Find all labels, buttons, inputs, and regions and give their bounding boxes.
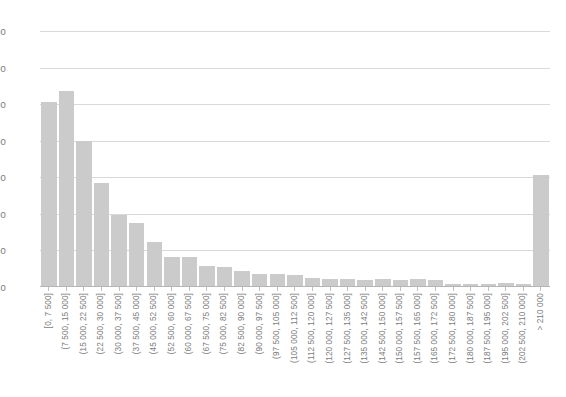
bar-slot [286,31,304,287]
x-tick-slot [444,287,462,291]
x-label-slot: (30 000, 37 500] [110,293,128,393]
x-axis-tick [523,287,524,291]
bar-slot [321,31,339,287]
x-axis-tick-label: (97 500, 105 000] [273,293,281,359]
x-tick-slot [515,287,533,291]
bar-slot [374,31,392,287]
histogram-chart: 0100200300400500600700 [0, 7 500](7 500,… [0,0,566,397]
y-axis-tick-label: 700 [0,26,6,37]
x-axis-tick [488,287,489,291]
x-tick-slot [409,287,427,291]
bar-slot [532,31,550,287]
x-axis-tick [330,287,331,291]
x-axis-tick-label: (127 500, 135 000] [344,293,352,364]
x-tick-slot [339,287,357,291]
x-tick-slot [374,287,392,291]
x-axis-tick-label: (37 500, 45 000] [133,293,141,354]
x-axis-labels: [0, 7 500](7 500, 15 000](15 000, 22 500… [40,293,550,393]
x-axis-tick-label: (195 000, 202 500] [502,293,510,364]
x-axis-tick [540,287,541,291]
x-axis-tick-label: (150 000, 157 500] [396,293,404,364]
x-axis-tick-label: > 210 000 [537,293,545,331]
x-axis-tick [206,287,207,291]
bar-slot [427,31,445,287]
x-axis-tick [259,287,260,291]
x-axis-tick-label: (90 000, 97 500] [256,293,264,354]
x-axis-tick [470,287,471,291]
y-axis-tick-label: 300 [0,172,6,183]
x-tick-slot [497,287,515,291]
x-axis-tick [312,287,313,291]
bar [76,141,91,287]
x-axis-tick [365,287,366,291]
x-axis-tick-label: (60 000, 67 500] [185,293,193,354]
x-tick-slot [93,287,111,291]
x-axis-tick [136,287,137,291]
x-axis-tick-label: (135 000, 142 500] [361,293,369,364]
x-tick-slot [163,287,181,291]
bar-slot [145,31,163,287]
bar-slot [497,31,515,287]
x-label-slot: (202 500, 210 000] [515,293,533,393]
bar-slot [304,31,322,287]
x-label-slot: (157 500, 165 000] [409,293,427,393]
bar-slot [356,31,374,287]
bar [59,91,74,287]
bar-slot [181,31,199,287]
x-axis-tick-label: (202 500, 210 000] [519,293,527,364]
bar-slot [444,31,462,287]
bar-slot [40,31,58,287]
x-label-slot: (7 500, 15 000] [58,293,76,393]
x-label-slot: (127 500, 135 000] [339,293,357,393]
bar [111,215,126,287]
x-axis-tick-label: (30 000, 37 500] [115,293,123,354]
x-tick-slot [58,287,76,291]
x-tick-slot [286,287,304,291]
x-axis-tick [347,287,348,291]
bar-series [40,31,550,287]
x-label-slot: (97 500, 105 000] [269,293,287,393]
x-axis-tick-label: (82 500, 90 000] [238,293,246,354]
bar-slot [58,31,76,287]
x-tick-slot [198,287,216,291]
bar-slot [216,31,234,287]
bar-slot [75,31,93,287]
x-label-slot: (45 000, 52 500] [145,293,163,393]
x-axis-tick-label: (52 500, 60 000] [168,293,176,354]
bar-slot [515,31,533,287]
x-axis-tick-label: (165 000, 172 500] [431,293,439,364]
x-label-slot: (52 500, 60 000] [163,293,181,393]
x-axis-tick-label: (112 500, 120 000] [308,293,316,363]
x-axis-ticks [40,287,550,291]
x-tick-slot [110,287,128,291]
x-label-slot: [0, 7 500] [40,293,58,393]
x-axis-tick-label: (180 000, 187 500] [467,293,475,364]
bar [182,257,197,287]
bar [147,242,162,287]
x-label-slot: (105 000, 112 500] [286,293,304,393]
x-label-slot: (37 500, 45 000] [128,293,146,393]
x-axis-tick-label: (45 000, 52 500] [150,293,158,354]
x-tick-slot [304,287,322,291]
x-tick-slot [145,287,163,291]
bar-slot [392,31,410,287]
x-axis-tick-label: (142 500, 150 000] [379,293,387,364]
x-tick-slot [532,287,550,291]
y-axis-tick-label: 400 [0,135,6,146]
x-tick-slot [216,287,234,291]
x-tick-slot [128,287,146,291]
bar-slot [479,31,497,287]
bar-slot [339,31,357,287]
x-axis-tick [294,287,295,291]
x-axis-tick [224,287,225,291]
x-label-slot: (135 000, 142 500] [356,293,374,393]
bar-slot [110,31,128,287]
x-axis-tick [505,287,506,291]
x-axis-tick-label: (105 000, 112 500] [291,293,299,363]
x-axis-tick-label: (22 500, 30 000] [97,293,105,354]
y-axis-tick-label: 100 [0,245,6,256]
y-axis-tick-label: 200 [0,208,6,219]
x-axis-tick [119,287,120,291]
y-axis-labels: 0100200300400500600700 [0,0,40,397]
bar [217,267,232,287]
